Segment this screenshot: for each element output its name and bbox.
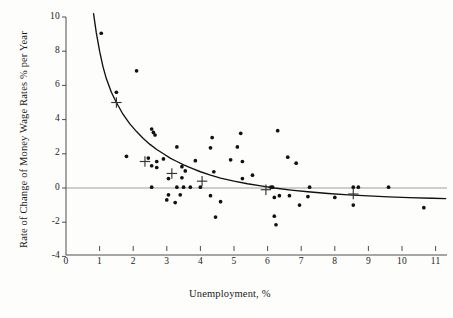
fitted-curve-path: [94, 14, 446, 199]
scatter-point: [209, 146, 213, 150]
scatter-point: [150, 164, 154, 168]
scatter-point: [188, 185, 192, 189]
scatter-point: [351, 185, 355, 189]
y-tick-label: 10: [50, 11, 60, 21]
y-tick-label: 4: [55, 113, 60, 123]
x-tick-label: 10: [388, 256, 416, 266]
y-axis-title: Rate of Change of Money Wage Rates % per…: [18, 31, 29, 248]
scatter-point: [178, 193, 182, 197]
scatter-point: [167, 193, 171, 197]
x-axis-title: Unemployment, %: [189, 288, 271, 299]
scatter-point: [155, 166, 159, 170]
scatter-point: [272, 196, 276, 200]
phillips-curve-figure: 1086420-2-4 01234567891011 Rate of Chang…: [0, 0, 453, 318]
x-tick-label: 1: [86, 256, 114, 266]
scatter-point: [229, 158, 233, 162]
scatter-point: [175, 145, 179, 149]
scatter-point: [239, 131, 243, 135]
scatter-point: [180, 165, 184, 169]
scatter-point: [298, 203, 302, 207]
group-average-markers: [111, 97, 358, 199]
x-tick-label: 5: [220, 256, 248, 266]
scatter-point: [422, 206, 426, 210]
scatter-point: [288, 194, 292, 198]
scatter-point: [271, 185, 275, 189]
scatter-point: [356, 185, 360, 189]
scatter-point: [333, 196, 337, 200]
scatter-point: [165, 198, 169, 202]
scatter-point: [351, 203, 355, 207]
x-tick-label: 4: [186, 256, 214, 266]
scatter-point: [286, 155, 290, 159]
scatter-point: [167, 177, 171, 181]
x-tick-label: 2: [119, 256, 147, 266]
chart-canvas: [0, 0, 453, 318]
scatter-point: [173, 201, 177, 205]
scatter-point: [276, 129, 280, 133]
scatter-point: [182, 185, 186, 189]
x-tick-label: 3: [153, 256, 181, 266]
y-axis-ticks: [62, 17, 66, 256]
scatter-point: [115, 90, 119, 94]
x-tick-label: 6: [254, 256, 282, 266]
y-tick-label: 0: [55, 182, 60, 192]
scatter-point: [209, 194, 213, 198]
scatter-point: [219, 200, 223, 204]
y-tick-label: 8: [55, 45, 60, 55]
scatter-point: [162, 157, 166, 161]
scatter-point: [210, 136, 214, 140]
scatter-point: [294, 161, 298, 165]
scatter-point: [183, 169, 187, 173]
scatter-point: [150, 185, 154, 189]
scatter-point: [146, 156, 150, 160]
scatter-point: [175, 185, 179, 189]
x-axis-ticks: [100, 246, 436, 251]
scatter-point: [194, 159, 198, 163]
scatter-point: [153, 133, 157, 137]
axes: [66, 17, 447, 255]
scatter-point: [274, 223, 278, 227]
fitted-curve: [94, 14, 446, 199]
cross-marker: [348, 189, 358, 199]
scatter-point: [272, 214, 276, 218]
scatter-point: [135, 69, 139, 73]
scatter-point: [236, 145, 240, 149]
scatter-point: [212, 170, 216, 174]
cross-marker: [197, 176, 207, 186]
y-tick-label: 2: [55, 147, 60, 157]
scatter-point: [308, 185, 312, 189]
scatter-point: [278, 194, 282, 198]
x-tick-label: 0: [52, 256, 80, 266]
scatter-point: [99, 31, 103, 35]
scatter-point: [125, 155, 129, 159]
scatter-point: [180, 176, 184, 180]
x-tick-label: 7: [287, 256, 315, 266]
scatter-point: [387, 185, 391, 189]
scatter-point: [241, 160, 245, 164]
data-points: [99, 31, 425, 226]
x-tick-label: 11: [422, 256, 450, 266]
scatter-point: [306, 195, 310, 199]
scatter-point: [251, 173, 255, 177]
scatter-point: [150, 127, 154, 131]
y-tick-label: 6: [55, 79, 60, 89]
cross-marker: [111, 97, 121, 107]
scatter-point: [241, 177, 245, 181]
y-tick-label: -2: [52, 216, 60, 226]
x-tick-label: 9: [354, 256, 382, 266]
scatter-point: [214, 215, 218, 219]
x-tick-label: 8: [321, 256, 349, 266]
scatter-point: [155, 160, 159, 164]
